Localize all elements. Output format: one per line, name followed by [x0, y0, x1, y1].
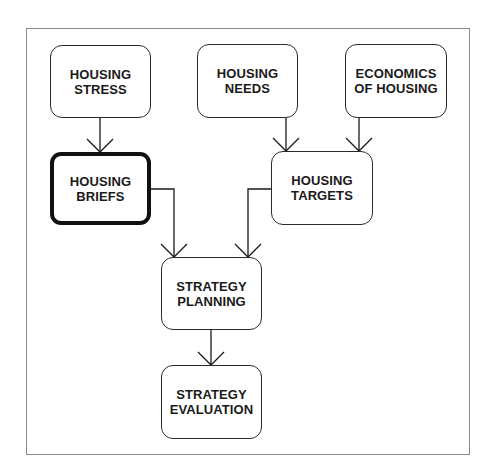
edge-strategy-planning-to-strategy-evaluation	[198, 330, 224, 365]
node-strategy-planning: STRATEGY PLANNING	[161, 257, 262, 330]
node-economics-of-housing: ECONOMICS OF HOUSING	[345, 44, 447, 118]
node-label: HOUSING NEEDS	[217, 66, 278, 96]
node-label: HOUSING STRESS	[70, 67, 131, 97]
node-housing-briefs: HOUSING BRIEFS	[50, 152, 151, 225]
edge-housing-needs-to-housing-targets	[273, 118, 299, 151]
edge-housing-targets-to-strategy-planning	[235, 189, 271, 257]
node-label: ECONOMICS OF HOUSING	[354, 66, 437, 96]
edge-housing-briefs-to-strategy-planning	[150, 189, 187, 257]
edge-housing-stress-to-housing-briefs	[87, 118, 113, 152]
edge-economics-to-housing-targets	[346, 118, 372, 151]
node-housing-stress: HOUSING STRESS	[50, 45, 151, 118]
node-label: HOUSING TARGETS	[291, 173, 353, 203]
node-strategy-evaluation: STRATEGY EVALUATION	[161, 365, 262, 439]
node-housing-targets: HOUSING TARGETS	[271, 151, 373, 225]
node-label: STRATEGY EVALUATION	[170, 387, 254, 417]
node-label: STRATEGY PLANNING	[176, 279, 247, 309]
node-label: HOUSING BRIEFS	[70, 174, 131, 204]
node-housing-needs: HOUSING NEEDS	[197, 44, 298, 118]
